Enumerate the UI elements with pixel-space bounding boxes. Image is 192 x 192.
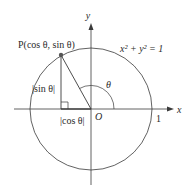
radius-segment: [61, 55, 91, 109]
sin-theta-label: |sin θ|: [32, 83, 55, 94]
point-p-label: P(cos θ, sin θ): [18, 39, 75, 51]
unit-circle-diagram: y x O 1 x² + y² = 1 P(cos θ, sin θ) θ |s…: [0, 0, 192, 192]
right-angle-marker: [61, 102, 68, 109]
angle-theta-label: θ: [106, 79, 111, 90]
point-p: [59, 53, 63, 57]
y-axis-arrow-icon: [89, 23, 94, 30]
cos-theta-label: |cos θ|: [60, 115, 85, 126]
x-tick-label-1: 1: [156, 113, 161, 124]
origin-label: O: [95, 111, 102, 122]
circle-equation: x² + y² = 1: [119, 43, 163, 54]
y-axis-label: y: [85, 10, 91, 21]
x-axis-arrow-icon: [167, 107, 174, 112]
x-axis-label: x: [176, 104, 182, 115]
